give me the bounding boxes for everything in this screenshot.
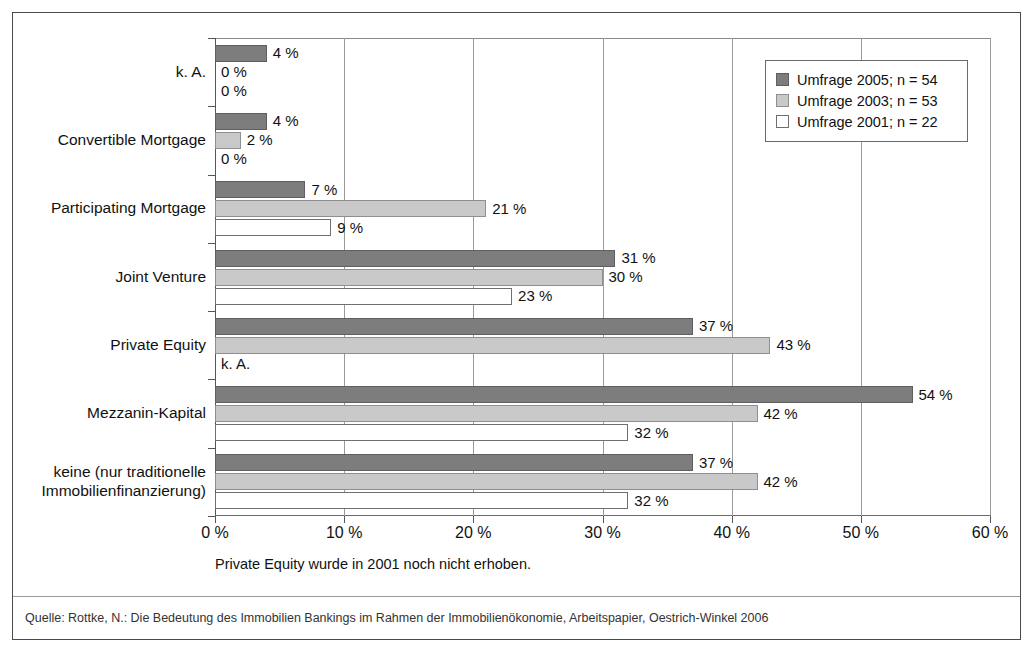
category-tick-mark bbox=[208, 516, 215, 517]
bar-no-data-label: k. A. bbox=[221, 356, 250, 371]
bar-value-label: 32 % bbox=[634, 493, 668, 508]
chart-legend: Umfrage 2005; n = 54Umfrage 2003; n = 53… bbox=[765, 60, 968, 142]
value-tick-label: 10 % bbox=[326, 524, 362, 542]
bar-value-label: 7 % bbox=[311, 182, 337, 197]
legend-swatch-icon bbox=[776, 115, 789, 128]
bar bbox=[215, 337, 770, 354]
bar bbox=[215, 200, 486, 217]
bar-value-label: 0 % bbox=[221, 83, 247, 98]
category-tick-mark bbox=[208, 448, 215, 449]
value-axis-tick-labels: 0 %10 %20 %30 %40 %50 %60 % bbox=[215, 524, 990, 548]
bar-value-label: 42 % bbox=[764, 406, 798, 421]
bar-value-label: 54 % bbox=[919, 387, 953, 402]
bar-value-label: 37 % bbox=[699, 318, 733, 333]
bar-value-label: 0 % bbox=[221, 64, 247, 79]
bar-value-label: 30 % bbox=[609, 269, 643, 284]
category-tick-mark bbox=[208, 379, 215, 380]
bar bbox=[215, 219, 331, 236]
category-label: Mezzanin-Kapital bbox=[87, 403, 206, 422]
bar-value-label: 23 % bbox=[518, 288, 552, 303]
value-tick-label: 20 % bbox=[455, 524, 491, 542]
category-tick-mark bbox=[208, 175, 215, 176]
bar bbox=[215, 473, 758, 490]
value-tick-mark bbox=[215, 516, 216, 523]
bar-value-label: 4 % bbox=[273, 45, 299, 60]
category-label: Private Equity bbox=[110, 335, 206, 354]
bar bbox=[215, 386, 913, 403]
value-tick-label: 50 % bbox=[843, 524, 879, 542]
legend-item-label: Umfrage 2001; n = 22 bbox=[797, 114, 938, 130]
legend-swatch-icon bbox=[776, 94, 789, 107]
category-label: keine (nur traditionelle Immobilienfinan… bbox=[41, 462, 206, 500]
value-tick-mark bbox=[344, 516, 345, 523]
chart-footnote: Private Equity wurde in 2001 noch nicht … bbox=[215, 556, 531, 572]
value-tick-label: 30 % bbox=[584, 524, 620, 542]
category-label: Participating Mortgage bbox=[51, 198, 206, 217]
gridline bbox=[603, 38, 604, 516]
bar bbox=[215, 113, 267, 130]
legend-item-label: Umfrage 2003; n = 53 bbox=[797, 93, 938, 109]
legend-item[interactable]: Umfrage 2001; n = 22 bbox=[776, 111, 957, 132]
bar bbox=[215, 250, 615, 267]
bar bbox=[215, 424, 628, 441]
legend-item[interactable]: Umfrage 2003; n = 53 bbox=[776, 90, 957, 111]
bar-value-label: 37 % bbox=[699, 455, 733, 470]
bar-value-label: 43 % bbox=[776, 337, 810, 352]
figure-container: k. A.Convertible MortgageParticipating M… bbox=[0, 0, 1033, 670]
bar-value-label: 9 % bbox=[337, 220, 363, 235]
gridline bbox=[990, 38, 991, 516]
bar bbox=[215, 181, 305, 198]
value-tick-label: 40 % bbox=[713, 524, 749, 542]
bar-value-label: 21 % bbox=[492, 201, 526, 216]
value-tick-mark bbox=[603, 516, 604, 523]
bar bbox=[215, 45, 267, 62]
source-citation: Quelle: Rottke, N.: Die Bedeutung des Im… bbox=[25, 611, 768, 625]
value-tick-mark bbox=[990, 516, 991, 523]
bar bbox=[215, 454, 693, 471]
value-tick-label: 0 % bbox=[201, 524, 229, 542]
category-label: Joint Venture bbox=[116, 267, 206, 286]
value-tick-label: 60 % bbox=[972, 524, 1008, 542]
bar bbox=[215, 269, 603, 286]
bar bbox=[215, 492, 628, 509]
legend-item[interactable]: Umfrage 2005; n = 54 bbox=[776, 69, 957, 90]
category-label: k. A. bbox=[176, 62, 206, 81]
bar bbox=[215, 132, 241, 149]
source-divider bbox=[13, 596, 1020, 597]
category-tick-mark bbox=[208, 311, 215, 312]
bar-value-label: 32 % bbox=[634, 425, 668, 440]
bar-value-label: 0 % bbox=[221, 151, 247, 166]
category-tick-mark bbox=[208, 106, 215, 107]
bar-value-label: 31 % bbox=[621, 250, 655, 265]
category-tick-mark bbox=[208, 243, 215, 244]
category-tick-mark bbox=[208, 38, 215, 39]
gridline bbox=[732, 38, 733, 516]
bar bbox=[215, 405, 758, 422]
bar-value-label: 4 % bbox=[273, 113, 299, 128]
bar-value-label: 42 % bbox=[764, 474, 798, 489]
legend-item-label: Umfrage 2005; n = 54 bbox=[797, 72, 938, 88]
value-tick-mark bbox=[473, 516, 474, 523]
category-axis-labels: k. A.Convertible MortgageParticipating M… bbox=[20, 38, 206, 516]
value-tick-mark bbox=[861, 516, 862, 523]
category-label: Convertible Mortgage bbox=[58, 130, 206, 149]
bar bbox=[215, 318, 693, 335]
bar bbox=[215, 288, 512, 305]
value-tick-mark bbox=[732, 516, 733, 523]
bar-value-label: 2 % bbox=[247, 132, 273, 147]
legend-swatch-icon bbox=[776, 73, 789, 86]
